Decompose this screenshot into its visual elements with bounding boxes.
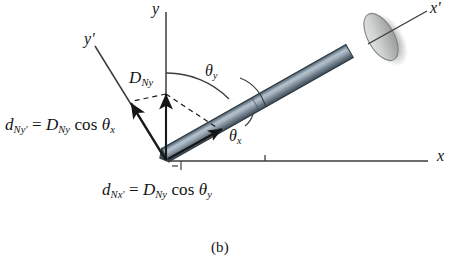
nail-object <box>156 7 416 165</box>
vector-label-d-ny-sub: Ny <box>141 77 153 88</box>
vector-d-ny-prime-arrow <box>131 103 166 160</box>
eq2-rhs-base: D <box>143 180 155 199</box>
equation-d-ny-prime: dNy' = DNy cos θx <box>5 116 115 133</box>
angle-label-theta-x: θx <box>229 128 241 144</box>
eq1-equals: = <box>28 115 46 134</box>
eq1-angle-base: θ <box>102 115 110 134</box>
eq2-lhs-sub: Nx' <box>111 189 125 200</box>
eq1-rhs-sub: Ny <box>58 124 70 135</box>
nail-shaft <box>156 44 353 164</box>
eq1-angle-sub: x <box>110 124 115 135</box>
eq1-cos: cos <box>74 115 97 134</box>
axis-label-y-prime: y' <box>84 31 95 47</box>
eq2-lhs-base: d <box>102 180 111 199</box>
dashed-construction-to-y-prime <box>133 94 166 101</box>
angle-label-theta-y-sub: y <box>213 70 217 81</box>
eq2-rhs-sub: Ny <box>155 189 167 200</box>
eq1-lhs-base: d <box>5 115 14 134</box>
eq1-rhs-base: D <box>46 115 58 134</box>
vector-label-d-ny: DNy <box>129 69 153 86</box>
figure-container: y x' x y' DNy θy θx dNy' = DNy cos θx dN… <box>0 0 458 278</box>
vector-label-d-ny-base: D <box>129 68 141 87</box>
equation-d-nx-prime: dNx' = DNy cos θy <box>102 181 212 198</box>
dashed-construction-to-x-prime <box>166 94 222 131</box>
axis-label-y: y <box>152 1 159 17</box>
eq2-equals: = <box>125 180 143 199</box>
axis-label-x: x <box>437 148 444 164</box>
eq2-angle-sub: y <box>207 189 212 200</box>
figure-caption: (b) <box>211 240 229 255</box>
angle-label-theta-x-sub: x <box>237 135 241 146</box>
angle-label-theta-y: θy <box>205 63 217 79</box>
angle-arc-theta-y <box>166 73 229 99</box>
eq1-lhs-sub: Ny' <box>14 124 28 135</box>
angle-label-theta-y-base: θ <box>205 62 213 79</box>
axis-label-x-prime: x' <box>430 0 441 16</box>
angle-label-theta-x-base: θ <box>229 127 237 144</box>
eq2-cos: cos <box>171 180 194 199</box>
eq2-angle-base: θ <box>199 180 207 199</box>
